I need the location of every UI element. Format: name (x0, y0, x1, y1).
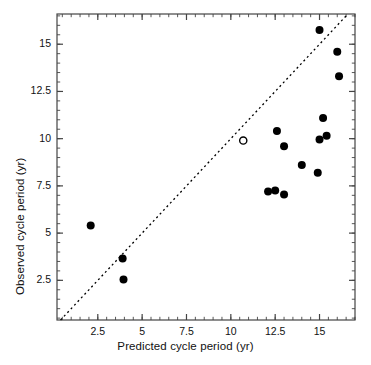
data-point-open (240, 137, 247, 144)
data-point (316, 136, 324, 144)
data-point (119, 255, 127, 263)
data-point (333, 48, 341, 56)
data-point (120, 275, 128, 283)
plot-frame (57, 14, 355, 320)
plot-canvas (0, 0, 371, 365)
data-point (314, 169, 322, 177)
x-axis-title: Predicted cycle period (yr) (0, 340, 371, 352)
data-point (316, 26, 324, 34)
data-point (323, 132, 331, 140)
data-point (273, 127, 281, 135)
x-tick-label: 7.5 (166, 325, 206, 337)
x-tick-label: 12.5 (255, 325, 295, 337)
data-point (280, 142, 288, 150)
data-point (335, 72, 343, 80)
x-tick-label: 10 (211, 325, 251, 337)
scatter-plot-figure: Predicted cycle period (yr) Observed cyc… (0, 0, 371, 365)
y-tick-label: 2.5 (9, 273, 51, 285)
x-tick-label: 15 (300, 325, 340, 337)
data-point (264, 188, 272, 196)
data-point (87, 222, 95, 230)
y-tick-label: 10 (9, 132, 51, 144)
data-point (280, 190, 288, 198)
data-point (298, 161, 306, 169)
x-tick-label: 5 (122, 325, 162, 337)
data-point (319, 114, 327, 122)
x-tick-label: 2.5 (78, 325, 118, 337)
y-tick-label: 15 (9, 37, 51, 49)
y-tick-label: 5 (9, 226, 51, 238)
data-point (271, 187, 279, 195)
y-tick-label: 12.5 (9, 84, 51, 96)
y-tick-label: 7.5 (9, 179, 51, 191)
